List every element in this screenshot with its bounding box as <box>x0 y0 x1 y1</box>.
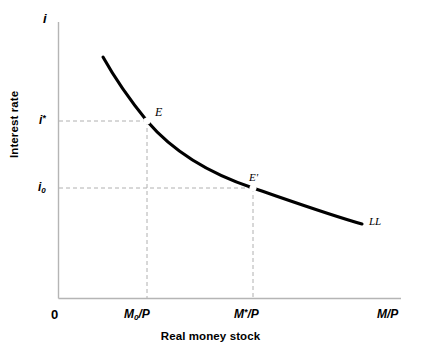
y-tick-label-i-zero: i0 <box>38 181 46 195</box>
point-marker-e-prime <box>250 185 256 191</box>
y-tick-label-i-star: i* <box>39 114 46 126</box>
figure-caption-strip: FIGURE 14-2 THE DEMAND FOR REAL BALANCES… <box>0 349 421 357</box>
chart-canvas <box>0 0 421 357</box>
money-demand-figure: i Interest rate i* i0 0 M0/P M*/P M/P Re… <box>0 0 421 357</box>
point-label-e-prime: E' <box>249 172 258 183</box>
x-tick-m-zero-tail: /P <box>138 307 149 321</box>
y-axis-title: Interest rate <box>8 58 20 158</box>
x-tick-m-star-main: M <box>234 307 244 321</box>
point-label-e: E <box>155 106 162 118</box>
point-marker-e <box>144 118 150 124</box>
x-tick-m-star-tail: /P <box>248 307 259 321</box>
y-axis-symbol: i <box>43 12 47 25</box>
curve-label-ll: LL <box>369 216 381 227</box>
money-demand-curve-ll <box>103 57 362 224</box>
x-tick-m-zero-main: M <box>124 307 134 321</box>
y-tick-i-zero-sub: 0 <box>41 186 45 195</box>
x-axis-title: Real money stock <box>0 330 421 342</box>
x-axis-end-symbol: M/P <box>377 308 398 320</box>
origin-label: 0 <box>51 308 58 321</box>
x-axis-end-tail: /P <box>387 307 398 321</box>
x-tick-label-m-zero: M0/P <box>124 308 150 322</box>
figure-caption-text: FIGURE 14-2 THE DEMAND FOR REAL BALANCES… <box>26 349 403 351</box>
y-tick-i-star-sup: * <box>42 113 46 123</box>
x-tick-label-m-star: M*/P <box>234 308 259 320</box>
x-axis-end-main: M <box>377 307 387 321</box>
